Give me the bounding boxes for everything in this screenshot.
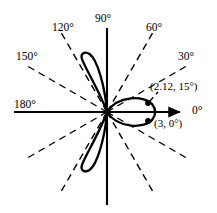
axis-label-150deg: 150° [16, 51, 38, 63]
point-label-2-12-15deg: (2.12, 15°) [150, 81, 197, 92]
axis-label-120deg: 120° [52, 22, 74, 34]
axis-label-90deg: 90° [95, 13, 111, 25]
polar-plot-figure: 90° 60° 30° 0° 120° 150° 180° (2.12, 15°… [0, 0, 217, 213]
leader-line-group [150, 92, 158, 101]
point-marker-3-0deg [145, 118, 151, 124]
dashed-ray-150 [27, 66, 107, 112]
dashed-ray-210 [27, 112, 107, 158]
point-label-3-0deg: (3, 0°) [154, 118, 182, 129]
rose-lobe-240deg [82, 112, 107, 171]
axis-label-30deg: 30° [178, 51, 194, 63]
axis-label-60deg: 60° [146, 22, 162, 34]
axis-label-0deg: 0° [192, 105, 202, 117]
axis-label-180deg: 180° [14, 99, 36, 111]
leader-line-2-12 [150, 92, 158, 101]
rose-lobe-120deg [82, 53, 107, 112]
